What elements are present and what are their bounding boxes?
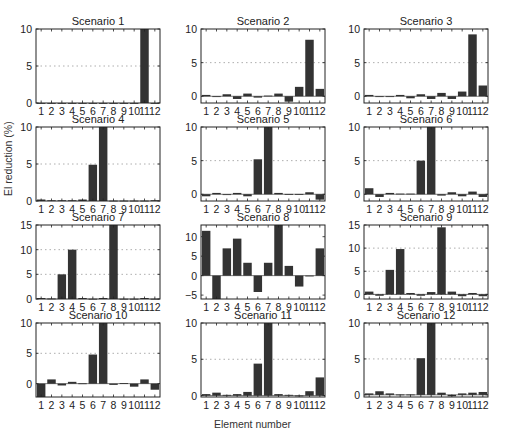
bar-element-7 (99, 323, 107, 384)
bar-element-9 (285, 266, 293, 276)
y-tick-label: 5 (26, 158, 32, 170)
x-tick-label: 2 (377, 399, 383, 411)
x-tick-label: 5 (408, 399, 414, 411)
subplot-scenario-7: Scenario 7051015123456789101112 (6, 209, 166, 313)
subplot-title: Scenario 1 (72, 15, 125, 27)
bar-element-7 (264, 127, 272, 194)
subplot-title: Scenario 7 (72, 211, 125, 223)
bar-element-6 (89, 355, 97, 384)
y-tick-label: 0 (354, 90, 360, 102)
x-tick-label: 4 (69, 399, 75, 411)
x-tick-label: 8 (276, 399, 282, 411)
y-tick-label: 0 (191, 188, 197, 200)
subplot-title: Scenario 4 (72, 113, 125, 125)
bar-element-5 (243, 194, 251, 196)
y-tick-label: 10 (348, 121, 360, 133)
subplot-title: Scenario 12 (397, 309, 456, 321)
bar-element-4 (233, 239, 241, 276)
subplot-title: Scenario 9 (400, 211, 453, 223)
bar-element-7 (427, 323, 435, 395)
y-tick-label: 5 (191, 353, 197, 365)
x-tick-label: 4 (234, 399, 240, 411)
bar-element-2 (375, 194, 383, 197)
bar-element-6 (417, 94, 425, 96)
bar-element-7 (264, 323, 272, 396)
bar-element-9 (448, 292, 456, 295)
y-tick-label: 0 (26, 97, 32, 109)
bar-element-7 (427, 292, 435, 294)
bar-element-1 (202, 194, 210, 196)
subplot-title: Scenario 5 (237, 113, 290, 125)
y-tick-label: 10 (20, 121, 32, 133)
bar-element-11 (305, 40, 313, 97)
bar-element-6 (254, 276, 262, 292)
y-tick-label: 15 (348, 219, 360, 231)
x-tick-label: 7 (265, 399, 271, 411)
bar-element-4 (396, 249, 404, 294)
y-tick-label: 0 (191, 390, 197, 402)
bar-element-6 (417, 358, 425, 395)
y-tick-label: 5 (191, 155, 197, 167)
bar-element-11 (305, 192, 313, 194)
x-tick-label: 5 (80, 399, 86, 411)
bar-element-3 (223, 94, 231, 96)
bar-element-10 (458, 92, 466, 97)
x-tick-label: 4 (397, 399, 403, 411)
bar-element-7 (99, 127, 107, 201)
subplot-scenario-3: Scenario 30510123456789101112 (334, 13, 494, 117)
axes-box (201, 323, 325, 397)
x-tick-label: 7 (100, 399, 106, 411)
y-tick-label: 10 (20, 23, 32, 35)
y-tick-label: 5 (354, 155, 360, 167)
axes-box (364, 323, 488, 397)
x-tick-label: 12 (149, 399, 161, 411)
subplot-title: Scenario 6 (400, 113, 453, 125)
y-tick-label: 5 (354, 57, 360, 69)
y-tick-label: 0 (354, 188, 360, 200)
x-tick-label: 1 (203, 399, 209, 411)
bar-element-12 (316, 377, 324, 395)
y-tick-label: −5 (185, 289, 197, 301)
bar-element-1 (365, 292, 373, 295)
bar-element-6 (254, 159, 262, 194)
x-tick-label: 2 (49, 399, 55, 411)
x-axis-label: Element number (0, 418, 505, 430)
subplot-scenario-10: Scenario 100510123456789101112 (6, 307, 166, 411)
bar-element-9 (448, 96, 456, 99)
y-tick-label: 10 (348, 317, 360, 329)
bar-element-3 (58, 274, 66, 299)
subplot-scenario-1: Scenario 10510123456789101112 (6, 13, 166, 117)
bar-element-2 (375, 391, 383, 395)
bar-element-2 (47, 379, 55, 383)
bar-element-4 (68, 250, 76, 299)
y-tick-label: 5 (26, 347, 32, 359)
subplot-scenario-11: Scenario 110510123456789101112 (171, 307, 331, 411)
y-tick-label: 5 (26, 60, 32, 72)
y-tick-label: 0 (191, 270, 197, 282)
bar-element-12 (479, 86, 487, 97)
bar-element-8 (437, 227, 445, 294)
y-tick-label: 10 (185, 317, 197, 329)
x-tick-label: 6 (418, 399, 424, 411)
subplot-title: Scenario 10 (69, 309, 128, 321)
subplot-scenario-12: Scenario 120510123456789101112 (334, 307, 494, 411)
bar-element-11 (468, 192, 476, 195)
subplot-scenario-9: Scenario 9051015123456789101112 (334, 209, 494, 313)
subplot-title: Scenario 3 (400, 15, 453, 27)
axes-box (36, 225, 160, 299)
axes-box (364, 127, 488, 201)
subplot-scenario-6: Scenario 60510123456789101112 (334, 111, 494, 215)
bar-element-10 (130, 384, 138, 387)
x-tick-label: 8 (111, 399, 117, 411)
y-tick-label: 0 (26, 378, 32, 390)
y-tick-label: 10 (348, 242, 360, 254)
bar-element-10 (458, 194, 466, 196)
bar-element-6 (417, 161, 425, 195)
bar-element-3 (386, 270, 394, 295)
bar-element-8 (274, 225, 282, 276)
x-tick-label: 9 (121, 399, 127, 411)
x-tick-label: 2 (214, 399, 220, 411)
subplot-scenario-4: Scenario 40510123456789101112 (6, 111, 166, 215)
x-tick-label: 9 (286, 399, 292, 411)
subplot-title: Scenario 8 (237, 211, 290, 223)
